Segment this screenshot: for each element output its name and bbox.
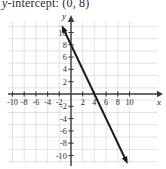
x-tick-label: 8 <box>116 98 120 107</box>
x-tick-label: -4 <box>44 98 51 107</box>
coordinate-graph: -10-8-6-4-2246810108642-2-4-6-8-10 xy <box>0 10 166 169</box>
y-tick-label: 6 <box>63 53 67 62</box>
x-tick-label: 2 <box>81 98 85 107</box>
graph-canvas: -10-8-6-4-2246810108642-2-4-6-8-10 xy <box>0 10 166 169</box>
y-tick-label: -6 <box>60 127 67 136</box>
x-tick-label: 6 <box>104 98 108 107</box>
x-tick-label: -10 <box>7 98 18 107</box>
y-axis-label: y <box>61 11 66 21</box>
x-tick-label: -6 <box>32 98 39 107</box>
x-tick-label: -8 <box>21 98 28 107</box>
x-tick-label: 10 <box>125 98 133 107</box>
y-tick-label: 4 <box>63 65 67 74</box>
y-tick-label: -2 <box>60 102 67 111</box>
caption-text: -intercept: (0, 8) <box>8 0 90 10</box>
y-tick-label: 8 <box>63 41 67 50</box>
y-tick-label: -10 <box>56 152 67 161</box>
y-tick-label: -4 <box>60 115 67 124</box>
y-tick-label: -8 <box>60 139 67 148</box>
x-axis-label: x <box>156 97 161 107</box>
graph-background <box>0 10 166 169</box>
y-tick-label: 2 <box>63 78 67 87</box>
